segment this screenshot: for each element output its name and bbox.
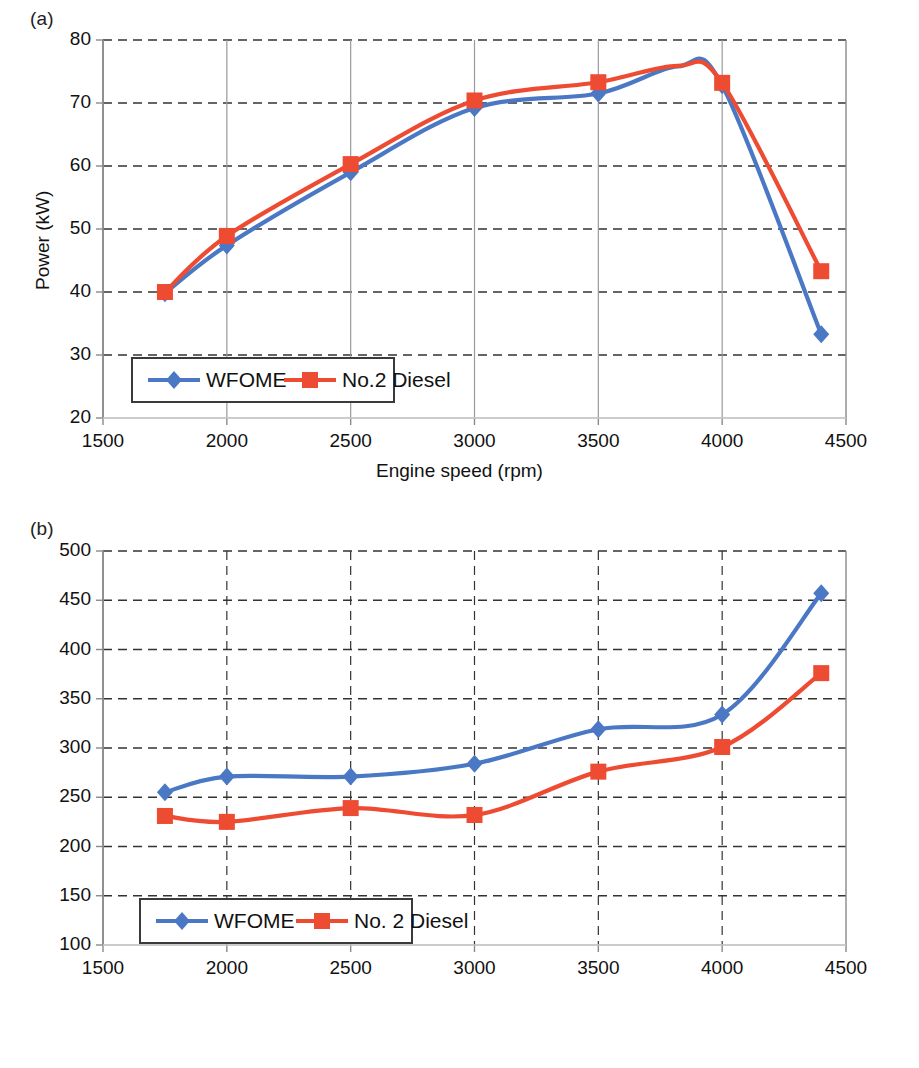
figure-panel-b: (b) WFOMENo. 2 Diesel Engine speed (rpm)…	[0, 500, 919, 1068]
y-tick-label: 350	[23, 687, 91, 709]
legend-marker	[314, 913, 330, 929]
chart-a-y-axis-title: Power (kW)	[32, 191, 54, 290]
data-point-marker	[590, 720, 606, 738]
y-tick-label: 500	[23, 539, 91, 561]
legend-marker	[302, 372, 318, 388]
data-point-marker	[813, 665, 829, 681]
chart-legend: WFOMENo.2 Diesel	[132, 358, 451, 402]
data-point-marker	[219, 814, 235, 830]
y-tick-label: 400	[23, 638, 91, 660]
y-tick-label: 40	[23, 280, 91, 302]
y-tick-label: 20	[23, 406, 91, 428]
y-tick-label: 250	[23, 785, 91, 807]
series-line	[165, 593, 821, 792]
chart-b-plot: WFOMENo. 2 Diesel	[0, 500, 919, 1068]
legend-label: No. 2 Diesel	[354, 909, 468, 932]
x-tick-label: 3500	[548, 430, 648, 452]
data-point-marker	[813, 325, 829, 343]
x-tick-label: 2000	[177, 430, 277, 452]
data-point-marker	[590, 764, 606, 780]
x-tick-label: 4000	[672, 430, 772, 452]
x-tick-label: 3500	[548, 957, 648, 979]
x-tick-label: 4500	[796, 430, 896, 452]
data-point-marker	[714, 75, 730, 91]
y-tick-label: 70	[23, 91, 91, 113]
y-tick-label: 100	[23, 933, 91, 955]
data-point-marker	[157, 808, 173, 824]
data-point-marker	[467, 92, 483, 108]
y-tick-label: 450	[23, 588, 91, 610]
x-tick-label: 3000	[425, 957, 525, 979]
data-point-marker	[343, 800, 359, 816]
y-tick-label: 150	[23, 884, 91, 906]
data-point-marker	[157, 783, 173, 801]
x-tick-label: 2500	[301, 430, 401, 452]
legend-label: WFOME	[214, 909, 294, 932]
chart-legend: WFOMENo. 2 Diesel	[140, 899, 468, 943]
data-point-marker	[343, 768, 359, 786]
data-point-marker	[467, 807, 483, 823]
chart-a-x-axis-title: Engine speed (rpm)	[0, 460, 919, 482]
data-point-marker	[590, 74, 606, 90]
y-tick-label: 80	[23, 28, 91, 50]
series-wfome	[157, 584, 829, 801]
y-tick-label: 200	[23, 835, 91, 857]
data-point-marker	[343, 156, 359, 172]
series-line	[165, 62, 821, 292]
data-point-marker	[467, 755, 483, 773]
figure-panel-a: (a) WFOMENo.2 Diesel Engine speed (rpm) …	[0, 0, 919, 500]
x-tick-label: 1500	[53, 957, 153, 979]
x-tick-label: 4500	[796, 957, 896, 979]
chart-a-plot: WFOMENo.2 Diesel	[0, 0, 919, 500]
y-tick-label: 50	[23, 217, 91, 239]
data-point-marker	[157, 284, 173, 300]
x-tick-label: 3000	[425, 430, 525, 452]
tick-marks	[96, 551, 846, 952]
x-tick-label: 2500	[301, 957, 401, 979]
y-tick-label: 300	[23, 736, 91, 758]
legend-label: WFOME	[206, 368, 286, 391]
data-point-marker	[219, 228, 235, 244]
series-wfome	[157, 59, 829, 344]
data-point-marker	[714, 739, 730, 755]
x-tick-label: 2000	[177, 957, 277, 979]
gridlines	[103, 551, 846, 945]
x-tick-label: 1500	[53, 430, 153, 452]
y-tick-label: 60	[23, 154, 91, 176]
legend-label: No.2 Diesel	[342, 368, 451, 391]
x-tick-label: 4000	[672, 957, 772, 979]
data-point-marker	[813, 263, 829, 279]
data-point-marker	[219, 768, 235, 786]
series-line	[165, 59, 821, 335]
y-tick-label: 30	[23, 343, 91, 365]
